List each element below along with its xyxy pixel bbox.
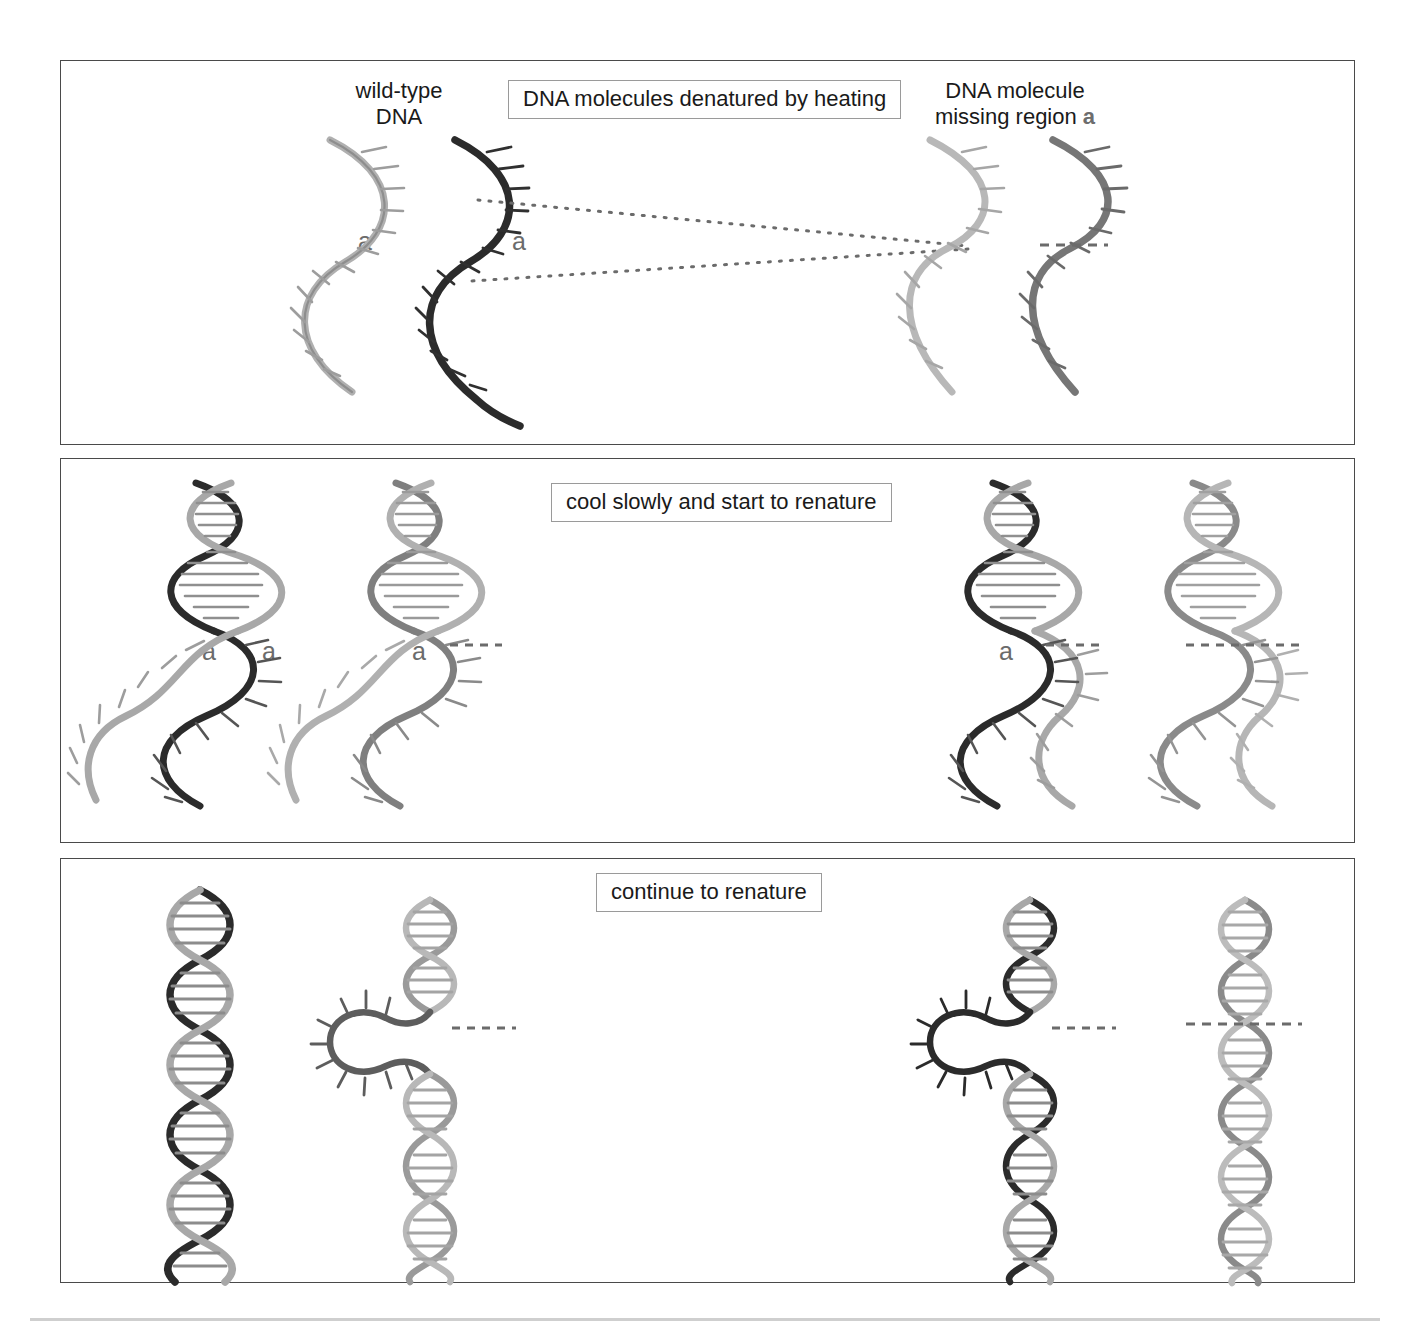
caption-denatured-by-heating: DNA molecules denatured by heating xyxy=(508,80,901,119)
panel-continue-renature xyxy=(60,858,1355,1283)
region-a-bold: a xyxy=(1083,104,1095,129)
region-a-label-p2-c: a xyxy=(412,639,426,664)
region-a-label-p1-right: a xyxy=(512,229,526,254)
region-a-label-p2-b: a xyxy=(262,639,276,664)
footer-rule xyxy=(30,1318,1380,1321)
caption-cool-slowly: cool slowly and start to renature xyxy=(551,483,892,522)
dna-renaturation-figure: wild-type DNA DNA molecules denatured by… xyxy=(0,0,1410,1333)
region-a-label-p2-a: a xyxy=(202,639,216,664)
caption-continue-renature: continue to renature xyxy=(596,873,822,912)
mutant-dna-label: DNA molecule missing region a xyxy=(905,78,1125,131)
wild-type-dna-label: wild-type DNA xyxy=(334,78,464,131)
region-a-label-p2-d: a xyxy=(999,639,1013,664)
region-a-label-p1-left: a xyxy=(358,229,372,254)
